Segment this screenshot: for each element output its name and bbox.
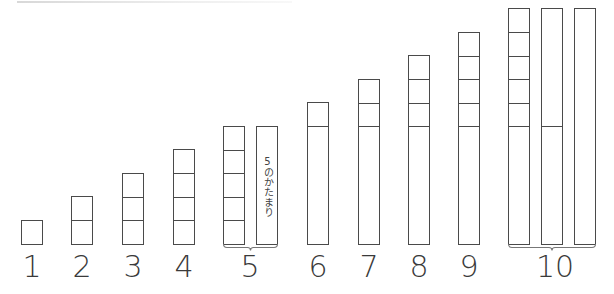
unit-block bbox=[122, 173, 144, 198]
number-label-5: 5 bbox=[230, 252, 270, 282]
unit-block bbox=[458, 55, 480, 80]
number-label-8: 8 bbox=[399, 252, 439, 282]
five-block bbox=[408, 126, 430, 245]
unit-block bbox=[508, 8, 530, 33]
unit-block bbox=[458, 32, 480, 57]
unit-block bbox=[223, 126, 245, 151]
unit-block bbox=[408, 79, 430, 104]
five-block bbox=[541, 8, 563, 127]
unit-block bbox=[358, 102, 380, 127]
unit-block bbox=[223, 220, 245, 245]
number-label-2: 2 bbox=[62, 252, 102, 282]
unit-block bbox=[223, 196, 245, 221]
unit-block bbox=[508, 55, 530, 80]
unit-block bbox=[173, 220, 195, 245]
unit-block bbox=[508, 32, 530, 57]
number-label-9: 9 bbox=[449, 252, 489, 282]
five-block bbox=[541, 126, 563, 245]
five-block bbox=[358, 126, 380, 245]
unit-block bbox=[173, 149, 195, 174]
unit-block bbox=[508, 79, 530, 104]
five-block-label: 5のかたまり bbox=[262, 156, 272, 217]
number-label-7: 7 bbox=[349, 252, 389, 282]
unit-block bbox=[223, 173, 245, 198]
unit-block bbox=[358, 79, 380, 104]
unit-block bbox=[458, 102, 480, 127]
unit-block bbox=[458, 79, 480, 104]
unit-block bbox=[173, 196, 195, 221]
unit-block bbox=[71, 196, 93, 221]
unit-block bbox=[21, 220, 43, 245]
unit-block bbox=[408, 55, 430, 80]
unit-block bbox=[307, 102, 329, 127]
unit-block bbox=[122, 220, 144, 245]
top-rule-line bbox=[17, 1, 292, 3]
number-label-4: 4 bbox=[164, 252, 204, 282]
five-block bbox=[458, 126, 480, 245]
unit-block bbox=[122, 196, 144, 221]
number-label-6: 6 bbox=[298, 252, 338, 282]
number-label-10: 10 bbox=[535, 252, 575, 282]
number-blocks-diagram: 12345のかたまり5678910 bbox=[0, 0, 614, 294]
unit-block bbox=[71, 220, 93, 245]
unit-block bbox=[223, 149, 245, 174]
unit-block bbox=[508, 102, 530, 127]
ten-block bbox=[574, 8, 596, 245]
five-block bbox=[508, 126, 530, 245]
unit-block bbox=[173, 173, 195, 198]
unit-block bbox=[408, 102, 430, 127]
number-label-1: 1 bbox=[12, 252, 52, 282]
number-label-3: 3 bbox=[113, 252, 153, 282]
five-block bbox=[307, 126, 329, 245]
